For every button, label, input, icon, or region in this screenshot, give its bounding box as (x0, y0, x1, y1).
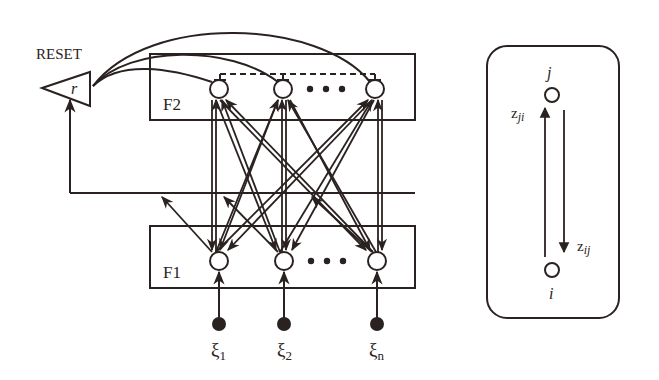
input-nodes (212, 317, 384, 331)
reset-feedback-curves (93, 33, 370, 86)
f2-lateral-inhibition (214, 74, 381, 80)
inset-node-i-label: i (549, 285, 553, 302)
inset-node-j (545, 88, 559, 102)
art-network-diagram: RESET r F2 F1 ξ1 ξ2 ξn j i zji zij (0, 0, 659, 380)
svg-text:ξn: ξn (369, 339, 384, 363)
inset-weight-ji: zji (511, 105, 524, 124)
input-lines (219, 272, 377, 320)
svg-text:ξ2: ξ2 (277, 339, 292, 363)
f1-node-2 (275, 252, 293, 270)
input-node-2 (277, 317, 291, 331)
f1-node-1 (210, 252, 228, 270)
inset-weight-ij: zij (577, 238, 591, 257)
f2-nodes (210, 80, 384, 98)
f2-label: F2 (163, 95, 181, 114)
f2-node-n (366, 80, 384, 98)
reset-node (42, 72, 90, 106)
input-node-n (370, 317, 384, 331)
f2-node-1 (210, 80, 228, 98)
reset-label: RESET (36, 46, 82, 62)
input-node-1 (212, 317, 226, 331)
svg-text:ξ1: ξ1 (211, 339, 226, 363)
reset-node-symbol: r (71, 80, 78, 97)
f1-node-n (368, 252, 386, 270)
input-labels: ξ1 ξ2 ξn (211, 339, 384, 363)
bottom-up-connections (216, 100, 378, 252)
inset-node-i (545, 263, 559, 277)
inset-node-j-label: j (545, 64, 552, 82)
top-down-connections (212, 100, 382, 250)
f1-nodes (210, 252, 386, 270)
f2-node-2 (274, 80, 292, 98)
f1-label: F1 (163, 263, 181, 282)
